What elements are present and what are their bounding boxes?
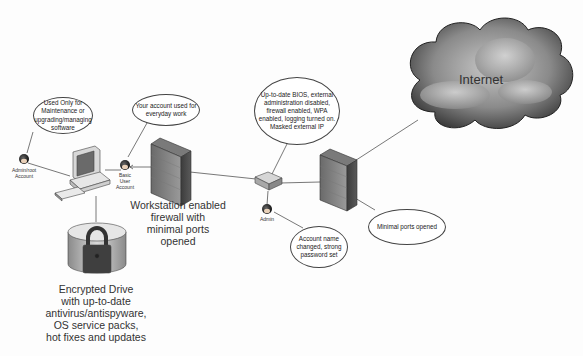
encrypted-drive-label: Encrypted Drive with up-to-date antiviru… (40, 283, 152, 343)
network-firewall-icon (320, 149, 357, 211)
router-icon (255, 172, 282, 190)
basic-user-account-label: Basic User Account (110, 172, 140, 190)
label-line: hot fixes and updates (46, 331, 146, 343)
callout-text: Used Only for (44, 99, 83, 106)
callout-text: firewall enabled, WPA (266, 107, 327, 114)
link-firewall2-to-internet (347, 120, 418, 166)
label-line: firewall with (151, 211, 205, 223)
callout-admin-account: Account name changed, strong password se… (290, 226, 348, 268)
label-line: with up-to-date (61, 295, 130, 307)
callout-text: enabled, logging turned on. (259, 115, 335, 122)
callout-text: Account name (299, 235, 339, 242)
callout-text: administration disabled, (264, 99, 330, 106)
callout-admin-usage: Used Only for Maintenance or upgrading/m… (33, 97, 93, 134)
label-line: opened (160, 235, 195, 247)
link-firewall-to-router (190, 172, 256, 179)
callout-text: Up-to-date BIOS, external (261, 91, 333, 98)
router-admin-label: Admin (255, 216, 279, 222)
label-line: Encrypted Drive (59, 283, 134, 295)
callout-text: Your account used for (135, 102, 196, 109)
label-line: antivirus/antispyware, (46, 307, 147, 319)
callout-text: Maintenance or (41, 107, 84, 114)
callout-text: changed, strong (296, 243, 341, 250)
callout-user-usage: Your account used for everyday work (132, 94, 200, 126)
label-line: Account (15, 173, 33, 179)
callout-text: password set (300, 251, 337, 258)
workstation-firewall-icon (151, 138, 191, 206)
pointer-router-config (270, 140, 289, 178)
basic-user-person-icon (120, 160, 130, 170)
callout-text: software (51, 124, 75, 131)
callout-text: everyday work (146, 110, 187, 117)
admin-root-person-icon (19, 154, 29, 164)
label-line: minimal ports (147, 223, 209, 235)
callout-text: Masked external IP (270, 123, 324, 130)
callout-text: Minimal ports opened (377, 223, 437, 231)
callout-text: upgrading/managing (34, 116, 91, 123)
pointer-user-usage (128, 123, 147, 157)
encrypted-drive-icon (68, 223, 126, 273)
label-line: Account (116, 184, 134, 190)
link-router-to-admin (267, 191, 268, 205)
router-admin-person-icon (262, 204, 272, 214)
label-line: Admin (260, 216, 274, 222)
callout-router-config: Up-to-date BIOS, external administration… (254, 77, 340, 145)
internet-label: Internet (459, 72, 503, 87)
link-router-to-firewall2 (280, 182, 320, 183)
label-line: Workstation enabled (130, 199, 226, 211)
workstation-firewall-label: Workstation enabled firewall with minima… (122, 199, 234, 247)
pointer-admin-usage (27, 132, 33, 153)
admin-root-account-label: Admin/root Account (4, 167, 44, 179)
label-line: OS service packs, (54, 319, 139, 331)
callout-network-firewall: Minimal ports opened (368, 209, 446, 245)
